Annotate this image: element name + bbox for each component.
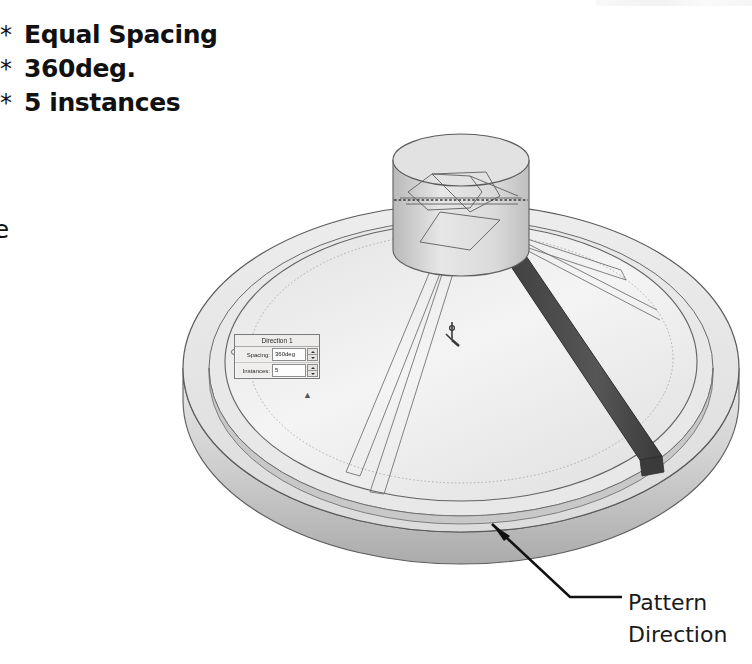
- pattern-direction-callout: Pattern Direction: [628, 587, 727, 651]
- paragraph-line: ckbox: [0, 290, 9, 330]
- list-item: * Equal Spacing: [0, 18, 250, 52]
- instances-label: Instances:: [236, 368, 272, 374]
- bullet-text: 5 instances: [24, 86, 180, 119]
- chevron-up-icon[interactable]: ▲: [303, 391, 312, 400]
- callout-line-2: Direction: [628, 619, 727, 651]
- hub-top-face: [393, 134, 529, 186]
- instances-input[interactable]: 5: [272, 364, 306, 377]
- paragraph-line: ble the: [0, 210, 9, 250]
- paragraph-line: select: [0, 330, 9, 370]
- scan-edge-artifact: [596, 0, 752, 6]
- paragraph-line: ies: [0, 250, 9, 290]
- instruction-paragraph: ble the ies ckbox select Rib ure.: [0, 210, 9, 450]
- paragraph-line: ure.: [0, 410, 9, 450]
- list-item: * 360deg.: [0, 52, 250, 86]
- callout-line-1: Pattern: [628, 587, 727, 619]
- dialog-row-instances[interactable]: Instances: 5: [235, 363, 319, 378]
- paragraph-line: Rib: [0, 370, 9, 410]
- bullet-text: 360deg.: [24, 52, 136, 85]
- bullet-marker: *: [0, 87, 24, 120]
- dialog-title: Direction 1: [235, 335, 319, 347]
- bullet-marker: *: [0, 19, 24, 52]
- spinner-down-icon[interactable]: [308, 371, 317, 376]
- bullet-marker: *: [0, 53, 24, 86]
- instances-stepper[interactable]: [307, 364, 318, 377]
- spacing-input[interactable]: 360deg: [272, 348, 306, 361]
- spacing-label: Spacing:: [236, 352, 272, 358]
- spinner-down-icon[interactable]: [308, 355, 317, 360]
- dialog-row-spacing[interactable]: Spacing: 360deg: [235, 347, 319, 363]
- direction-dialog[interactable]: Direction 1 Spacing: 360deg Instances: 5: [234, 334, 320, 379]
- bullet-text: Equal Spacing: [24, 18, 218, 51]
- spacing-stepper[interactable]: [307, 348, 318, 361]
- selected-rib-end: [640, 456, 664, 476]
